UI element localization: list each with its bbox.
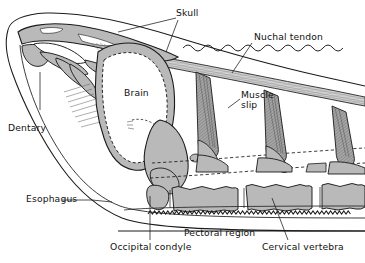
leader-skull-b (166, 20, 178, 52)
leader-muscle-slip (228, 99, 240, 108)
occipital-condyle (144, 120, 202, 194)
label-cervical-vertebra: Cervical vertebra (262, 242, 344, 252)
label-dentary: Dentary (8, 123, 46, 133)
label-pectoral-region: Pectoral region (184, 228, 255, 238)
anatomical-figure: Skull Nuchal tendon Brain Muscle slip De… (0, 0, 365, 263)
label-nuchal-tendon: Nuchal tendon (254, 32, 323, 42)
leader-skull-a (118, 18, 176, 32)
label-skull: Skull (176, 8, 199, 18)
label-occipital-condyle: Occipital condyle (110, 242, 192, 252)
label-muscle-slip-line2: slip (241, 100, 257, 110)
label-brain: Brain (124, 88, 149, 98)
label-esophagus: Esophagus (26, 194, 77, 204)
